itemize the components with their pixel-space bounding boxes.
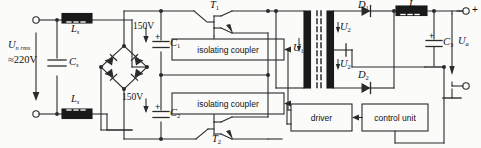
inductor-l-out-label: L bbox=[409, 0, 415, 10]
junction-feedback bbox=[442, 65, 446, 69]
cap-cs-label: Cs bbox=[69, 57, 79, 68]
source-value: ≈220V bbox=[8, 55, 37, 66]
isolating-coupler-top-box bbox=[172, 39, 284, 60]
transformer-secondary-top-label: U2 bbox=[340, 22, 351, 33]
transformer-secondary-winding bbox=[327, 11, 334, 88]
inductor-ls-top bbox=[62, 14, 92, 24]
junction-c1-rail bbox=[159, 9, 163, 13]
output-voltage-label: Ua bbox=[458, 36, 469, 47]
inductor-ls-bottom-label: Ls bbox=[71, 94, 79, 105]
junction-cs-bottom bbox=[55, 112, 59, 116]
transistor-t2-label: T2 bbox=[212, 134, 221, 145]
junction-c2-rail bbox=[159, 137, 163, 141]
junction-primary-top bbox=[266, 9, 270, 13]
cap-c2-label: C2 bbox=[170, 108, 180, 119]
cap-c1-polarity: + bbox=[155, 32, 160, 42]
output-terminal-minus bbox=[463, 83, 469, 89]
cap-c1-label: C1 bbox=[170, 38, 180, 49]
cap-c3-label: C3 bbox=[443, 37, 453, 48]
transistor-t2 bbox=[196, 114, 268, 140]
transformer-secondary-bottom-label: U2 bbox=[340, 59, 351, 70]
transformer-primary-winding bbox=[304, 11, 311, 88]
capacitor-c1 bbox=[153, 42, 169, 48]
dc-voltage-top-label: 150V bbox=[133, 22, 154, 32]
input-terminal-bottom bbox=[33, 111, 39, 117]
transformer-primary-label: U1 bbox=[293, 43, 304, 54]
transformer bbox=[304, 11, 334, 88]
control-unit-box bbox=[362, 104, 428, 131]
inductor-ls-top-label: Ls bbox=[71, 24, 79, 35]
transistor-t1 bbox=[194, 11, 268, 36]
diode-d2-label: D2 bbox=[358, 70, 369, 81]
output-terminal-plus bbox=[463, 8, 469, 14]
circuit-diagram: Un rms ≈220V Cs Ls Ls 150V 150V + C1 + C… bbox=[0, 0, 481, 148]
junction-c3 bbox=[432, 9, 436, 13]
cap-c3-polarity: + bbox=[429, 31, 434, 41]
input-terminal-top bbox=[33, 17, 39, 23]
diode-d1-label: D1 bbox=[358, 0, 369, 11]
transistor-t1-label: T1 bbox=[210, 0, 219, 11]
volt-arrow-bottom bbox=[143, 99, 148, 113]
arrow-control-to-driver bbox=[352, 115, 362, 121]
inductor-ls-bottom bbox=[62, 109, 92, 119]
junction-primary-left bbox=[274, 9, 278, 13]
capacitor-c2 bbox=[153, 112, 169, 118]
isolating-coupler-bottom-box bbox=[172, 93, 284, 114]
cap-c2-polarity: + bbox=[155, 102, 160, 112]
junction-diode-out bbox=[392, 9, 396, 13]
source-arrow bbox=[33, 33, 40, 101]
dc-voltage-bottom-label: 150V bbox=[122, 93, 143, 103]
junction-cs-top bbox=[55, 18, 59, 22]
output-plus-sign: + bbox=[472, 4, 478, 15]
source-label: Un rms bbox=[8, 40, 30, 51]
driver-box bbox=[291, 104, 352, 131]
diode-d2 bbox=[362, 83, 395, 94]
